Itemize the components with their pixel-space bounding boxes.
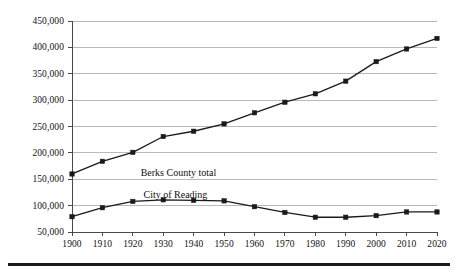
chart-plot-area: 50,000100,000150,000200,000250,000300,00… [0, 0, 458, 252]
y-axis-tick-label: 350,000 [0, 69, 64, 79]
data-point-marker [435, 210, 439, 214]
x-axis-tick-label: 1930 [154, 239, 173, 249]
data-point-marker [70, 172, 74, 176]
x-axis-tick-label: 1910 [93, 239, 112, 249]
data-point-marker [344, 79, 348, 83]
x-axis-tick-label: 1980 [306, 239, 325, 249]
data-point-marker [283, 210, 287, 214]
data-point-marker [100, 159, 104, 163]
data-point-marker [313, 92, 317, 96]
series-annotation-label: Berks County total [141, 167, 217, 178]
data-point-marker [404, 47, 408, 51]
x-axis-tick-label: 1940 [184, 239, 203, 249]
bottom-divider-rule [8, 263, 450, 266]
x-axis-tick-label: 1960 [245, 239, 264, 249]
data-point-marker [404, 210, 408, 214]
data-point-marker [313, 215, 317, 219]
data-point-marker [131, 150, 135, 154]
x-axis-tick-label: 1970 [275, 239, 294, 249]
y-axis-tick-label: 50,000 [0, 227, 64, 237]
data-point-marker [70, 215, 74, 219]
data-point-marker [252, 204, 256, 208]
x-axis-tick-label: 2000 [366, 239, 385, 249]
data-point-marker [222, 199, 226, 203]
data-point-marker [435, 36, 439, 40]
line-chart [0, 0, 458, 252]
y-axis-tick-label: 100,000 [0, 201, 64, 211]
x-axis-tick-label: 2020 [427, 239, 446, 249]
y-axis-tick-label: 300,000 [0, 95, 64, 105]
x-axis-tick-label: 1920 [123, 239, 142, 249]
data-point-marker [252, 111, 256, 115]
y-axis-tick-label: 400,000 [0, 42, 64, 52]
series-annotation-label: City of Reading [143, 189, 207, 200]
series-line-1 [72, 38, 437, 174]
y-axis-tick-label: 450,000 [0, 16, 64, 26]
data-point-marker [100, 206, 104, 210]
x-axis-tick-label: 1950 [214, 239, 233, 249]
x-axis-tick-label: 1900 [62, 239, 81, 249]
data-point-marker [161, 134, 165, 138]
data-point-marker [131, 199, 135, 203]
data-point-marker [191, 129, 195, 133]
x-axis-tick-label: 1990 [336, 239, 355, 249]
y-axis-tick-label: 200,000 [0, 148, 64, 158]
data-point-marker [283, 100, 287, 104]
data-point-marker [374, 213, 378, 217]
y-axis-tick-label: 250,000 [0, 122, 64, 132]
data-point-marker [222, 122, 226, 126]
x-axis-tick-label: 2010 [397, 239, 416, 249]
data-point-marker [344, 215, 348, 219]
y-axis-tick-label: 150,000 [0, 174, 64, 184]
data-point-marker [374, 59, 378, 63]
figure: 50,000100,000150,000200,000250,000300,00… [0, 0, 458, 277]
